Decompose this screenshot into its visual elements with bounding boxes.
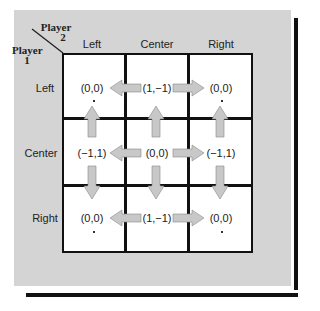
arrow-up-icon xyxy=(84,106,100,137)
arrow-down-icon xyxy=(84,166,100,199)
arrow-up-icon xyxy=(212,106,228,137)
equilibrium-marker xyxy=(221,231,223,233)
payoff-right-right: (0,0) xyxy=(210,212,233,224)
arrow-left-icon xyxy=(110,145,141,161)
arrow-right-icon xyxy=(173,80,204,96)
arrow-left-icon xyxy=(110,210,141,226)
payoff-left-left: (0,0) xyxy=(81,82,104,94)
payoff-right-left: (0,0) xyxy=(81,212,104,224)
arrow-right-icon xyxy=(173,145,204,161)
arrow-down-icon xyxy=(212,166,228,199)
arrow-up-icon xyxy=(148,106,164,137)
arrow-left-icon xyxy=(110,80,141,96)
payoff-left-right: (0,0) xyxy=(210,82,233,94)
payoff-center-right: (−1,1) xyxy=(206,147,235,159)
arrow-down-icon xyxy=(148,166,164,199)
payoff-center-left: (−1,1) xyxy=(77,147,106,159)
equilibrium-marker xyxy=(93,231,95,233)
equilibrium-marker xyxy=(221,100,223,102)
payoff-left-center: (1,−1) xyxy=(142,82,171,94)
payoff-center-center: (0,0) xyxy=(146,147,169,159)
equilibrium-marker xyxy=(93,100,95,102)
arrow-right-icon xyxy=(173,210,204,226)
payoff-right-center: (1,−1) xyxy=(142,212,171,224)
